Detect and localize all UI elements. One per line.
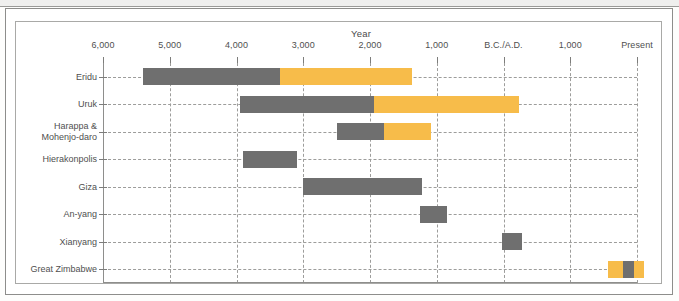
y-axis-category-label: Hierakonpolis [42, 154, 97, 165]
x-axis-tick-label: Present [621, 40, 653, 50]
x-axis-tick-label: 4,000 [225, 40, 248, 50]
x-axis-tick-label: 5,000 [158, 40, 181, 50]
y-axis-tick-mark [99, 159, 107, 160]
y-axis-tick-mark [99, 242, 107, 243]
y-axis-tick-mark [99, 187, 107, 188]
y-axis-category-label: Giza [78, 181, 97, 192]
y-axis-tick-mark [99, 104, 107, 105]
y-axis-category-label: Harappa &Mohenjo-daro [41, 121, 97, 143]
y-axis-category-label: An-yang [63, 209, 97, 220]
x-axis-tick-label: 3,000 [292, 40, 315, 50]
y-axis-category-label: Eridu [76, 71, 97, 82]
y-axis-category-label: Great Zimbabwe [30, 264, 97, 275]
x-axis-tick-mark [637, 57, 638, 63]
y-axis-tick-mark [99, 132, 107, 133]
x-axis-tick-label: B.C./A.D. [484, 40, 522, 50]
y-axis-tick-mark [99, 77, 107, 78]
x-axis-tick-label: 1,000 [559, 40, 582, 50]
y-axis-tick-mark [99, 214, 107, 215]
y-axis-tick-mark [99, 269, 107, 270]
timeline-chart: Year 6,0005,0004,0003,0002,0001,000B.C./… [0, 0, 679, 301]
chart-title: Year [351, 28, 371, 39]
vertical-gridline [637, 63, 638, 283]
x-axis-tick-label: 1,000 [425, 40, 448, 50]
y-axis: EriduUrukHarappa &Mohenjo-daroHierakonpo… [0, 0, 97, 301]
y-axis-category-label: Uruk [78, 99, 97, 110]
plot-area [103, 63, 637, 283]
x-axis-tick-label: 2,000 [358, 40, 381, 50]
y-axis-category-label: Xianyang [59, 236, 97, 247]
